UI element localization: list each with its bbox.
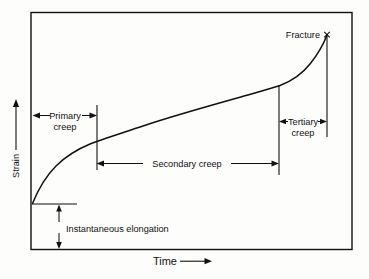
left-arrow-icon	[279, 119, 286, 124]
y-axis-label-group: Strain	[11, 99, 21, 178]
x-axis-label-group: Time	[153, 255, 212, 267]
primary-creep-label-line1: Primary	[49, 111, 81, 121]
up-arrow-icon	[13, 99, 19, 107]
secondary-creep-annotation: Secondary creep	[97, 159, 280, 169]
tertiary-creep-label-line1: Tertiary	[288, 117, 319, 127]
x-axis-label: Time	[153, 255, 177, 267]
right-arrow-icon	[272, 161, 280, 167]
tertiary-creep-annotation: Tertiary creep	[279, 36, 327, 175]
primary-creep-label-line2: creep	[54, 122, 77, 132]
creep-curve-figure: Strain Time Primary creep	[0, 0, 369, 279]
right-arrow-icon	[205, 258, 213, 264]
left-arrow-icon	[97, 161, 105, 167]
right-arrow-icon	[90, 113, 98, 119]
down-arrow-icon	[56, 242, 62, 249]
tertiary-creep-label-line2: creep	[292, 128, 315, 138]
primary-creep-annotation: Primary creep	[33, 105, 98, 170]
left-arrow-icon	[33, 113, 41, 119]
secondary-creep-label: Secondary creep	[152, 159, 221, 169]
y-axis-label: Strain	[11, 154, 21, 178]
fracture-label: Fracture	[286, 30, 320, 40]
right-arrow-icon	[320, 119, 327, 124]
fracture-annotation: Fracture	[286, 30, 330, 40]
figure-canvas: Strain Time Primary creep	[0, 0, 369, 279]
up-arrow-icon	[56, 205, 62, 212]
instantaneous-elongation-annotation: Instantaneous elongation	[32, 204, 169, 249]
instantaneous-elongation-label: Instantaneous elongation	[66, 224, 169, 234]
